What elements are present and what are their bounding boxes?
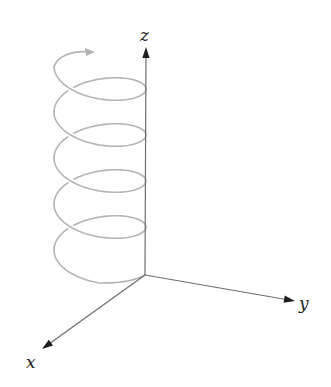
- z-axis-label: z: [139, 25, 150, 45]
- helix-halo: [54, 112, 146, 146]
- helix-back-arc: [54, 124, 146, 158]
- x-axis-label: x: [26, 352, 36, 372]
- z-axis-arrow-icon: [142, 47, 149, 58]
- helix-back-arc: [54, 216, 146, 250]
- helix-front-arc: [54, 204, 146, 238]
- axes: z y x: [26, 25, 309, 372]
- helix-halo: [54, 204, 146, 238]
- helix-front-arc: [54, 66, 146, 100]
- helix-top-segment: [54, 52, 91, 68]
- helix-diagram: z y x: [0, 0, 331, 387]
- y-axis-line: [145, 275, 289, 300]
- helix-halo: [54, 250, 145, 283]
- x-axis-line: [47, 275, 145, 345]
- helix-halo: [54, 66, 146, 100]
- helix-front-arc: [54, 112, 146, 146]
- y-axis-arrow-icon: [284, 296, 295, 303]
- helix-back-arcs: [54, 52, 146, 250]
- x-axis-arrow-icon: [42, 340, 53, 349]
- helix: [54, 48, 146, 283]
- helix-direction-arrow-icon: [85, 48, 95, 56]
- helix-front-arcs: [54, 66, 146, 283]
- helix-back-arc: [54, 170, 146, 204]
- helix-halo: [54, 158, 146, 192]
- y-axis-label: y: [298, 293, 309, 313]
- helix-front-arc: [54, 158, 146, 192]
- helix-back-arc: [54, 78, 146, 112]
